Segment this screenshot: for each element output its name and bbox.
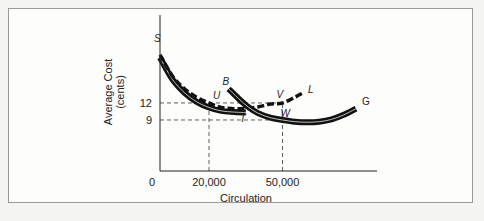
point-label-g: G	[362, 96, 370, 107]
y-tick-label: 12	[140, 97, 152, 109]
point-label-v: V	[277, 89, 285, 100]
y-axis-label: Average Cost	[102, 59, 114, 125]
point-label-t: T	[240, 113, 247, 124]
point-label-u: U	[213, 90, 221, 101]
origin-label: 0	[149, 176, 155, 188]
x-axis-label: Circulation	[220, 192, 272, 204]
curves	[160, 55, 356, 122]
point-label-w: W	[281, 108, 292, 119]
x-tick-label: 50,000	[266, 176, 300, 188]
y-axis-unit-label: (cents)	[114, 75, 126, 109]
curve-2-outer	[229, 89, 356, 122]
x-tick-label: 20,000	[192, 176, 226, 188]
chart-svg: 20,00050,000912 SUBVLTWG Circulation Ave…	[0, 0, 484, 221]
point-label-b: B	[223, 76, 230, 87]
curve-0-outer	[160, 58, 246, 113]
y-tick-label: 9	[146, 114, 152, 126]
point-label-s: S	[154, 33, 161, 44]
point-label-l: L	[308, 84, 314, 95]
point-labels: SUBVLTWG	[154, 33, 370, 124]
curve-1-dashed	[160, 55, 302, 109]
